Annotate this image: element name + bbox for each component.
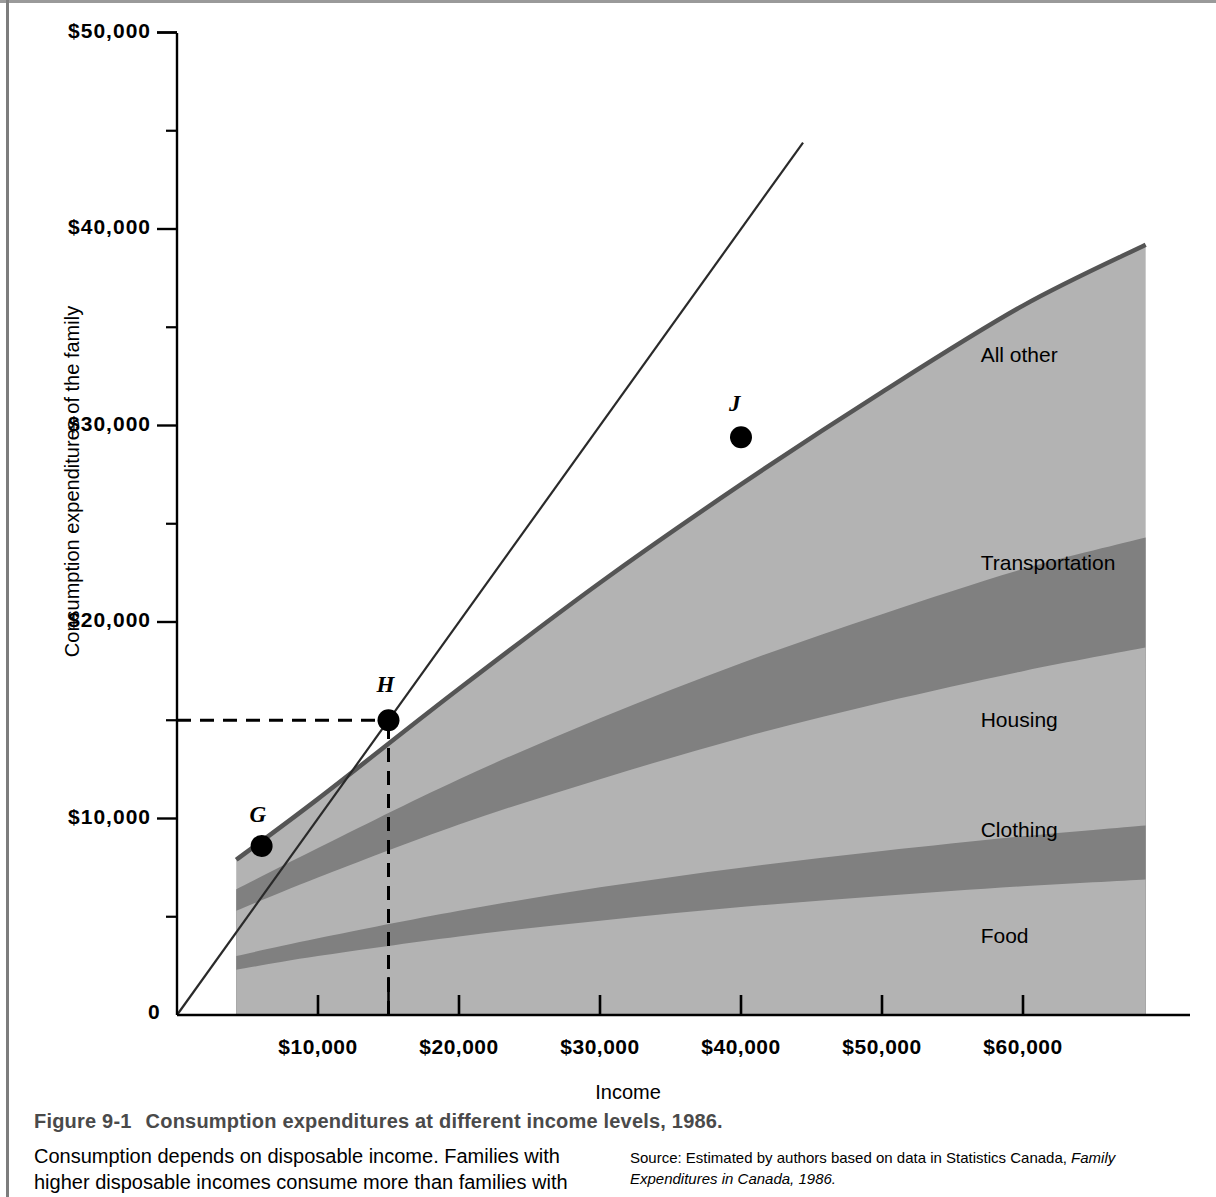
band-label-housing: Housing xyxy=(981,708,1058,732)
band-label-all-other: All other xyxy=(981,343,1058,367)
consumption-area-chart xyxy=(0,0,1216,1090)
y-tick-label-10000: $10,000 xyxy=(1,805,151,829)
x-tick-label-60000: $60,000 xyxy=(943,1035,1103,1059)
y-axis-title: Consumption expenditures of the family xyxy=(61,242,84,722)
chart-figure: $50,000 $40,000 $30,000 $20,000 $10,000 … xyxy=(0,0,1216,1090)
caption-title-line: Figure 9-1Consumption expenditures at di… xyxy=(34,1110,1204,1133)
point-label-h: H xyxy=(377,672,395,698)
y-tick-label-40000: $40,000 xyxy=(1,215,151,239)
x-tick-label-50000: $50,000 xyxy=(802,1035,962,1059)
band-label-transportation: Transportation xyxy=(981,551,1116,575)
figure-page: $50,000 $40,000 $30,000 $20,000 $10,000 … xyxy=(0,0,1216,1197)
band-label-clothing: Clothing xyxy=(981,818,1058,842)
band-label-food: Food xyxy=(981,924,1029,948)
x-tick-label-30000: $30,000 xyxy=(520,1035,680,1059)
y-tick-label-50000: $50,000 xyxy=(1,19,151,43)
data-point-j xyxy=(730,426,752,448)
point-label-j: J xyxy=(729,391,741,417)
caption-body: Consumption depends on disposable income… xyxy=(34,1144,594,1195)
data-point-g xyxy=(251,835,273,857)
data-point-h xyxy=(378,709,400,731)
x-tick-label-40000: $40,000 xyxy=(661,1035,821,1059)
x-tick-label-20000: $20,000 xyxy=(379,1035,539,1059)
point-label-g: G xyxy=(250,802,267,828)
figure-caption: Figure 9-1Consumption expenditures at di… xyxy=(34,1110,1204,1195)
origin-label: 0 xyxy=(148,1000,160,1024)
x-tick-label-10000: $10,000 xyxy=(238,1035,398,1059)
x-axis-title: Income xyxy=(528,1081,728,1104)
figure-number: Figure 9-1 xyxy=(34,1110,132,1132)
figure-title: Consumption expenditures at different in… xyxy=(146,1110,723,1132)
caption-source: Source: Estimated by authors based on da… xyxy=(630,1144,1170,1189)
source-prefix: Source: Estimated by authors based on da… xyxy=(630,1149,1071,1166)
